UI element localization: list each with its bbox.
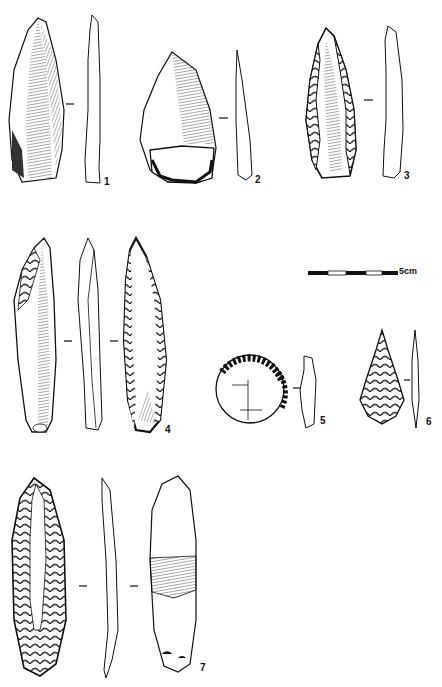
figure-label-7: 7 (200, 662, 206, 673)
figure-6-face (360, 330, 404, 424)
figure-label-1: 1 (104, 176, 110, 187)
figure-2-profile (236, 50, 252, 180)
figure-7-profile (102, 478, 118, 678)
figure-label-3: 3 (404, 170, 410, 181)
figure-3-dorsal (306, 28, 356, 178)
plate-drawing (0, 0, 442, 687)
figure-6-profile (412, 330, 419, 428)
figure-4-profile (78, 238, 102, 430)
figure-label-4: 4 (165, 424, 171, 435)
figure-4-ventral (124, 238, 166, 432)
figure-5-dorsal (216, 355, 285, 423)
scale-bar (308, 271, 398, 275)
artifact-plate: 1 2 3 4 5 6 7 5cm (0, 0, 442, 687)
figure-1-profile (85, 15, 100, 183)
figure-1-dorsal (9, 18, 64, 182)
figure-3-profile (383, 26, 403, 178)
figure-label-2: 2 (255, 174, 261, 185)
figure-2-dorsal (140, 52, 216, 183)
figure-label-6: 6 (426, 416, 432, 427)
figure-5-profile (300, 356, 316, 428)
figure-7-ventral (150, 476, 196, 672)
scale-bar-label: 5cm (399, 266, 417, 276)
figure-label-5: 5 (320, 415, 326, 426)
figure-4-dorsal (14, 238, 56, 432)
figure-7-dorsal (12, 478, 66, 676)
